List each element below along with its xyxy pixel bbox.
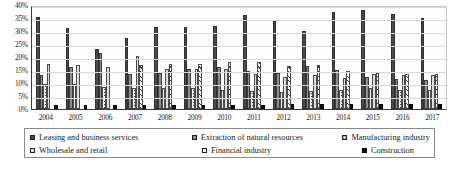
gridline bbox=[32, 72, 446, 73]
y-axis-tick-label: 20% bbox=[15, 54, 28, 61]
bar-group bbox=[357, 7, 387, 109]
gridline bbox=[32, 46, 446, 47]
bar-group bbox=[269, 7, 299, 109]
gridline bbox=[32, 33, 446, 34]
bar-group bbox=[150, 7, 180, 109]
bar bbox=[198, 64, 202, 110]
bar bbox=[320, 104, 324, 109]
y-axis-tick-label: 35% bbox=[15, 15, 28, 22]
bar bbox=[113, 105, 117, 109]
legend-label: Construction bbox=[371, 146, 414, 155]
bar bbox=[47, 64, 51, 110]
gridline bbox=[32, 85, 446, 86]
x-axis-tick-label: 2017 bbox=[417, 111, 447, 124]
x-axis-tick-label: 2006 bbox=[90, 111, 120, 124]
gridline bbox=[32, 59, 446, 60]
y-axis: 0%5%10%15%20%25%30%35%40% bbox=[0, 0, 31, 110]
legend-item-financial-industry: Financial industry bbox=[202, 144, 362, 157]
x-axis-tick-label: 2011 bbox=[239, 111, 269, 124]
legend-label: Wholesale and retail bbox=[39, 146, 107, 155]
bar bbox=[106, 67, 110, 109]
bar bbox=[291, 104, 295, 109]
chart-legend: Leasing and business services Extraction… bbox=[24, 128, 435, 158]
legend-item-manufacturing-industry: Manufacturing industry bbox=[342, 131, 430, 144]
x-axis-tick-label: 2016 bbox=[388, 111, 418, 124]
y-axis-tick-label: 30% bbox=[15, 28, 28, 35]
x-axis-tick-label: 2013 bbox=[298, 111, 328, 124]
legend-row-1: Leasing and business services Extraction… bbox=[30, 131, 430, 144]
x-axis-tick-label: 2015 bbox=[358, 111, 388, 124]
bar bbox=[84, 105, 88, 109]
legend-swatch-icon bbox=[202, 148, 207, 153]
legend-swatch-icon bbox=[30, 148, 35, 153]
gridline bbox=[32, 20, 446, 21]
x-axis-tick-label: 2009 bbox=[180, 111, 210, 124]
bar bbox=[379, 104, 383, 109]
bar bbox=[261, 105, 265, 109]
y-axis-tick-label: 0% bbox=[19, 106, 28, 113]
x-axis-tick-label: 2010 bbox=[209, 111, 239, 124]
bar bbox=[169, 64, 173, 110]
legend-item-leasing-and-business-services: Leasing and business services bbox=[30, 131, 192, 144]
bar-group bbox=[180, 7, 210, 109]
bar bbox=[409, 104, 413, 109]
legend-label: Manufacturing industry bbox=[351, 133, 430, 142]
y-axis-tick-label: 15% bbox=[15, 67, 28, 74]
legend-label: Extraction of natural resources bbox=[201, 133, 303, 142]
legend-label: Leasing and business services bbox=[39, 133, 138, 142]
bar bbox=[54, 105, 58, 109]
bar bbox=[350, 104, 354, 109]
legend-item-construction: Construction bbox=[362, 144, 414, 157]
bar-group bbox=[239, 7, 269, 109]
gridline bbox=[32, 98, 446, 99]
legend-label: Financial industry bbox=[211, 146, 271, 155]
bar-group bbox=[62, 7, 92, 109]
legend-item-wholesale-and-retail: Wholesale and retail bbox=[30, 144, 202, 157]
x-axis-tick-label: 2005 bbox=[61, 111, 91, 124]
y-axis-tick-label: 10% bbox=[15, 80, 28, 87]
bar bbox=[202, 105, 206, 109]
y-axis-tick-label: 40% bbox=[15, 2, 28, 9]
bar-chart: 0%5%10%15%20%25%30%35%40% 20042005200620… bbox=[0, 0, 453, 171]
bar-group bbox=[121, 7, 151, 109]
bar bbox=[143, 105, 147, 109]
bar-group bbox=[417, 7, 447, 109]
bar bbox=[438, 104, 442, 109]
legend-swatch-icon bbox=[342, 135, 347, 140]
legend-swatch-icon bbox=[362, 148, 367, 153]
x-axis-tick-label: 2004 bbox=[31, 111, 61, 124]
legend-item-extraction-of-natural-resources: Extraction of natural resources bbox=[192, 131, 343, 144]
bar-group bbox=[387, 7, 417, 109]
y-axis-tick-label: 25% bbox=[15, 41, 28, 48]
x-axis-tick-label: 2012 bbox=[269, 111, 299, 124]
bar-groups bbox=[32, 7, 446, 109]
bar-group bbox=[328, 7, 358, 109]
x-axis-tick-label: 2008 bbox=[150, 111, 180, 124]
bar bbox=[172, 105, 176, 109]
gridline bbox=[32, 7, 446, 8]
bar bbox=[231, 105, 235, 109]
bar-group bbox=[298, 7, 328, 109]
x-axis: 2004200520062007200820092010201120122013… bbox=[31, 111, 447, 124]
x-axis-tick-label: 2007 bbox=[120, 111, 150, 124]
bar-group bbox=[209, 7, 239, 109]
legend-row-2: Wholesale and retail Financial industry … bbox=[30, 144, 430, 157]
bar-group bbox=[91, 7, 121, 109]
bar-group bbox=[32, 7, 62, 109]
x-axis-tick-label: 2014 bbox=[328, 111, 358, 124]
legend-swatch-icon bbox=[30, 135, 35, 140]
legend-swatch-icon bbox=[192, 135, 197, 140]
y-axis-tick-label: 5% bbox=[19, 93, 28, 100]
plot-area bbox=[31, 6, 447, 110]
